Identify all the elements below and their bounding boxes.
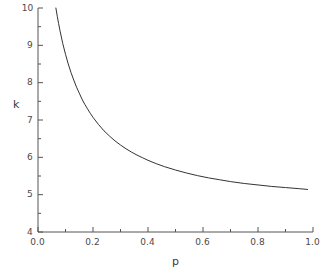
y-tick-label: 9 [27,41,33,50]
y-axis-ticks [38,8,43,232]
y-tick-label: 6 [27,153,33,162]
x-tick-label: 0.4 [140,238,154,247]
y-tick-label: 5 [27,190,33,199]
x-tick-label: 0.0 [30,238,44,247]
y-tick-label: 8 [27,78,33,87]
chart-container: p k 0.00.20.40.60.81.045678910 [0,0,325,277]
series-line-0 [56,8,308,189]
y-tick-label: 10 [22,4,33,13]
x-tick-label: 0.8 [250,238,264,247]
data-series-group [56,8,308,189]
axis-lines [38,8,313,232]
y-tick-label: 7 [27,116,33,125]
x-axis-ticks [38,227,313,232]
x-tick-label: 0.2 [85,238,99,247]
y-tick-label: 4 [27,228,33,237]
x-tick-label: 0.6 [195,238,209,247]
x-axis-title: p [172,256,179,267]
plot-area [0,0,325,277]
x-tick-label: 1.0 [305,238,319,247]
y-axis-title: k [13,99,19,110]
